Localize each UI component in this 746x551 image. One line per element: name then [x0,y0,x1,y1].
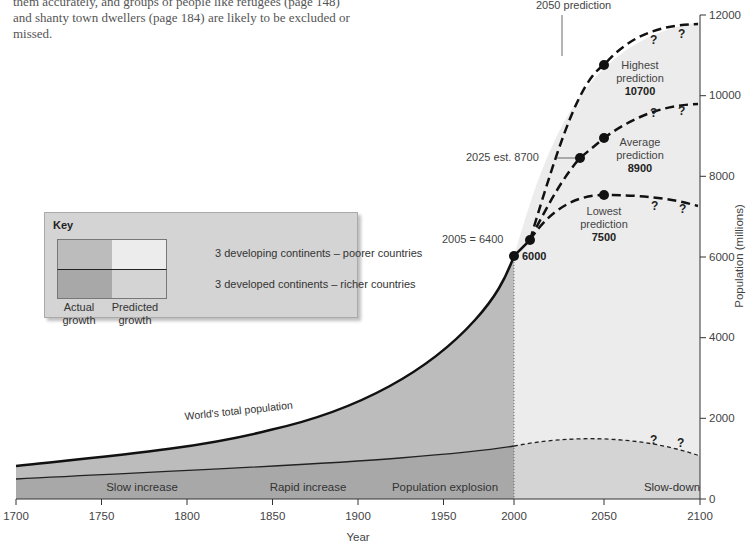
question-mark: ? [650,106,657,120]
x-axis-label: Year [346,531,369,543]
y-tick: 0 [709,493,715,505]
question-mark: ? [651,199,658,213]
question-mark: ? [677,436,684,450]
point-2005 [525,235,535,245]
point-highest [599,60,609,70]
svg-text:6000: 6000 [709,251,735,263]
x-tick: 1700 [3,510,29,522]
svg-text:2000: 2000 [709,412,735,424]
point-average [599,133,609,143]
question-mark: ? [679,202,686,216]
value-2000-label: 6000 [522,250,546,262]
swatch-developed-predicted [112,270,167,299]
question-mark: ? [650,33,657,47]
svg-text:10000: 10000 [709,89,741,101]
svg-text:Rapid increase: Rapid increase [270,481,347,493]
svg-text:8000: 8000 [709,170,735,182]
phase-label: Slow increase [106,481,178,493]
est-2025-label: 2025 est. 8700 [466,151,539,163]
point-2025 [575,153,585,163]
key-label-developing: 3 developing continents – poorer countri… [215,247,422,259]
y-axis-label: Population (millions) [733,204,745,308]
svg-text:1900: 1900 [345,510,371,522]
legend-key: Key 3 developing continents – poorer cou… [44,212,358,318]
svg-text:4000: 4000 [709,331,735,343]
key-col-predicted: Predicted growth [105,301,165,327]
lowest-value: 7500 [576,231,632,243]
swatch-developing-predicted [112,239,167,270]
svg-text:2050: 2050 [591,510,617,522]
svg-text:1950: 1950 [431,510,457,522]
key-label-developed: 3 developed continents – richer countrie… [215,278,416,290]
point-2000 [509,251,519,261]
svg-text:1800: 1800 [174,510,200,522]
question-mark: ? [650,433,657,447]
key-col-actual: Actual growth [57,301,101,327]
svg-text:1750: 1750 [89,510,115,522]
svg-text:2000: 2000 [501,510,527,522]
highest-value: 10700 [612,85,668,97]
average-label: Average prediction [612,136,668,162]
prediction-2050-label: 2050 prediction [536,0,588,12]
eq-2005-label: 2005 = 6400 [442,233,503,245]
highest-label: Highest prediction [612,59,668,85]
svg-text:Slow-down: Slow-down [644,481,700,493]
lowest-label: Lowest prediction [576,205,632,231]
average-value: 8900 [612,162,668,174]
question-mark: ? [678,104,685,118]
svg-text:Population explosion: Population explosion [392,481,498,493]
swatch-developing-actual [57,239,113,270]
svg-text:2100: 2100 [687,510,713,522]
svg-text:12000: 12000 [709,9,741,21]
svg-text:1850: 1850 [260,510,286,522]
curve-label: World's total population [184,399,293,422]
key-title: Key [53,219,73,231]
swatch-developed-actual [57,270,113,299]
point-lowest [599,190,609,200]
question-mark: ? [678,27,685,41]
